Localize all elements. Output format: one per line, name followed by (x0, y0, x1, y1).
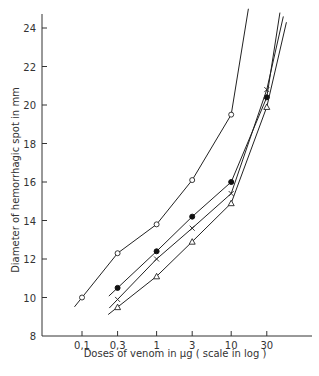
cross-marker (115, 297, 120, 302)
axes: 810121416182022240,10,3131030 (23, 14, 312, 351)
y-tick-label: 20 (23, 100, 36, 111)
dose-response-chart: 810121416182022240,10,3131030 Doses of v… (0, 0, 319, 376)
y-tick-label: 18 (23, 139, 36, 150)
y-tick-label: 10 (23, 293, 36, 304)
series-line (109, 16, 283, 308)
y-axis-title: Diameter of hemorrhagic spot in mm (10, 87, 21, 273)
y-tick-label: 24 (23, 23, 36, 34)
circle-filled-marker (154, 249, 159, 254)
series-open-circle (74, 9, 248, 307)
triangle-marker (228, 200, 234, 206)
triangle-marker (264, 104, 270, 110)
y-tick-label: 16 (23, 177, 36, 188)
series-group (74, 9, 286, 315)
y-tick-label: 8 (30, 331, 36, 342)
circle-open-marker (80, 295, 85, 300)
circle-filled-marker (115, 285, 120, 290)
cross-marker (190, 226, 195, 231)
circle-filled-marker (229, 180, 234, 185)
circle-filled-marker (190, 214, 195, 219)
y-tick-label: 22 (23, 62, 36, 73)
y-tick-label: 14 (23, 216, 36, 227)
series-line (108, 22, 286, 314)
series-triangle (108, 22, 286, 314)
y-tick-label: 12 (23, 254, 36, 265)
series-cross (109, 16, 283, 308)
circle-open-marker (190, 178, 195, 183)
series-line (74, 9, 248, 307)
series-line (109, 13, 280, 296)
series-filled-circle (109, 13, 280, 296)
circle-open-marker (154, 222, 159, 227)
cross-marker (154, 257, 159, 262)
circle-open-marker (229, 112, 234, 117)
x-axis-title: Doses of venom in μg ( scale in log ) (84, 348, 267, 359)
cross-marker (229, 191, 234, 196)
circle-open-marker (115, 251, 120, 256)
